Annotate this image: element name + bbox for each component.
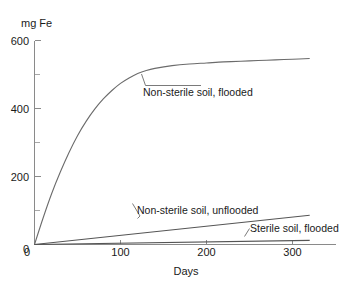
x-tick-label-300: 300 [283, 246, 301, 258]
y-tick-label-600: 600 [11, 35, 29, 47]
series-label-sterile-flooded: Sterile soil, flooded [250, 222, 339, 234]
series-line-sterile-flooded [35, 240, 310, 244]
chart-figure: mg Fe 600 400 200 0 [0, 0, 351, 286]
leader-line-non-sterile-flooded [142, 74, 202, 86]
leader-line-sterile-flooded [245, 229, 250, 237]
y-axis-title: mg Fe [21, 17, 52, 29]
y-tick-label-400: 400 [11, 103, 29, 115]
chart-canvas: mg Fe 600 400 200 0 [0, 0, 351, 286]
series-label-non-sterile-unflooded: Non-sterile soil, unflooded [137, 204, 259, 216]
x-axis-tick-labels: 0 100 200 300 [24, 246, 302, 258]
x-tick-label-0: 0 [24, 246, 30, 258]
x-axis-title: Days [173, 265, 199, 277]
y-axis-minor-ticks [35, 75, 40, 211]
x-tick-label-200: 200 [197, 246, 215, 258]
series-label-non-sterile-flooded: Non-sterile soil, flooded [143, 86, 253, 98]
y-axis-tick-labels: 600 400 200 0 [11, 35, 29, 255]
x-tick-label-100: 100 [111, 246, 129, 258]
y-tick-label-200: 200 [11, 171, 29, 183]
